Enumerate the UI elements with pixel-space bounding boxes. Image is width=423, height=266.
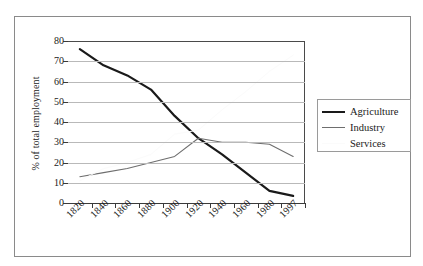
gridline — [68, 61, 305, 62]
legend-entry-industry[interactable]: Industry — [322, 119, 385, 135]
gridline — [68, 82, 305, 83]
y-axis-tick-mark — [63, 41, 68, 42]
y-axis-tick-label: 40 — [44, 117, 64, 127]
y-axis-tick-label: 60 — [44, 77, 64, 87]
gridline — [68, 102, 305, 103]
y-axis-tick-mark — [63, 102, 68, 103]
series-line-industry — [80, 138, 293, 176]
y-axis-title: % of total employment — [26, 52, 44, 194]
y-axis-tick-label: 70 — [44, 56, 64, 66]
y-axis-tick-mark — [63, 82, 68, 83]
y-axis-tick-mark — [63, 183, 68, 184]
legend-swatch-agriculture-icon — [322, 106, 345, 116]
gridline — [68, 163, 305, 164]
y-axis-tick-label: 0 — [44, 198, 64, 208]
plot-area — [68, 41, 305, 203]
legend-label: Services — [350, 138, 386, 149]
legend-entry-services[interactable]: Services — [322, 135, 386, 151]
y-axis-tick-label: 80 — [44, 36, 64, 46]
legend-swatch-services-icon — [322, 138, 345, 148]
legend-swatch-industry-icon — [322, 122, 345, 132]
y-axis-tick-labels: 01020304050607080 — [44, 34, 64, 210]
y-axis-tick-label: 50 — [44, 97, 64, 107]
y-axis-title-text: % of total employment — [30, 76, 41, 170]
legend-entry-agriculture[interactable]: Agriculture — [322, 103, 398, 119]
legend-label: Industry — [350, 122, 385, 133]
y-axis-tick-label: 10 — [44, 178, 64, 188]
gridline — [68, 142, 305, 143]
x-axis-tick-mark — [305, 204, 306, 208]
y-axis-tick-mark — [63, 61, 68, 62]
gridline — [68, 183, 305, 184]
y-axis-tick-label: 30 — [44, 137, 64, 147]
y-axis-tick-label: 20 — [44, 158, 64, 168]
legend-label: Agriculture — [350, 106, 398, 117]
chart-figure: % of total employment 01020304050607080 … — [0, 0, 423, 266]
chart-legend: AgricultureIndustryServices — [317, 99, 411, 152]
gridline — [68, 122, 305, 123]
y-axis-tick-mark — [63, 203, 68, 204]
y-axis-tick-mark — [63, 122, 68, 123]
y-axis-tick-mark — [63, 142, 68, 143]
y-axis-tick-mark — [63, 163, 68, 164]
